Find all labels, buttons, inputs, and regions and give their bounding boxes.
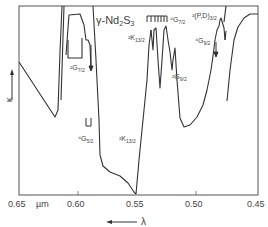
tick-label: 0.60 bbox=[67, 199, 85, 209]
label-2PD3-2: ²(P,D)3/2 bbox=[192, 12, 217, 21]
x-axis-arrow bbox=[106, 220, 137, 224]
label-2K13-2-lower: ²K13/2 bbox=[119, 135, 136, 144]
tick-label: 0.65 bbox=[8, 199, 26, 209]
absorption-chart: 0.65 0.60 0.55 0.50 0.45 µm λ κ bbox=[0, 0, 268, 227]
label-4G5-2: ⁴G5/2 bbox=[78, 135, 94, 144]
tick-label: 0.55 bbox=[126, 199, 144, 209]
x-ticks bbox=[78, 191, 196, 195]
tick-label: 0.50 bbox=[185, 199, 203, 209]
level-comb-bracket bbox=[147, 16, 167, 22]
y-axis-label: κ bbox=[4, 97, 14, 102]
level-bracket bbox=[86, 118, 91, 126]
label-2G9-2: ²G9/2 bbox=[172, 73, 187, 82]
x-axis-label: λ bbox=[141, 216, 146, 227]
label-2K13-2-upper: ²K13/2 bbox=[128, 34, 145, 43]
label-4G7-2: ⁴G7/2 bbox=[170, 16, 186, 25]
spectrum-curve bbox=[19, 6, 258, 194]
x-unit-label: µm bbox=[36, 199, 49, 209]
transition-labels: ²G7/2 ⁴G5/2 ²K13/2 ²K13/2 ⁴G7/2 ²G9/2 ²(… bbox=[70, 12, 217, 144]
label-4G9-2: ⁴G9/2 bbox=[195, 37, 211, 46]
label-2G7-2: ²G7/2 bbox=[70, 64, 85, 73]
chart-title: γ-Nd2S3 bbox=[96, 14, 134, 27]
tick-label: 0.45 bbox=[247, 199, 265, 209]
y-axis-arrow bbox=[10, 69, 14, 100]
